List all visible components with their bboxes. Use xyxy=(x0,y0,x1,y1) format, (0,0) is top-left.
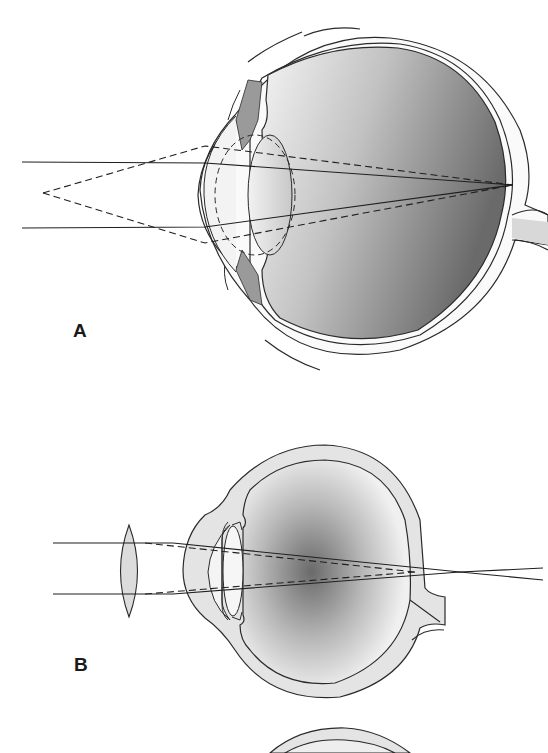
panel-a-eye xyxy=(22,28,548,370)
vitreous-body-b xyxy=(240,460,410,684)
panel-label-a: A xyxy=(73,320,87,342)
eye-optics-diagram xyxy=(0,0,548,753)
panel-label-b: B xyxy=(74,654,88,676)
panel-b-eye xyxy=(53,445,543,698)
crystalline-lens xyxy=(248,135,292,255)
upper-eyelid-line xyxy=(248,32,302,62)
crystalline-lens-b xyxy=(223,526,243,616)
convex-corrective-lens xyxy=(121,525,138,617)
panel-c-eye-partial xyxy=(270,728,410,753)
